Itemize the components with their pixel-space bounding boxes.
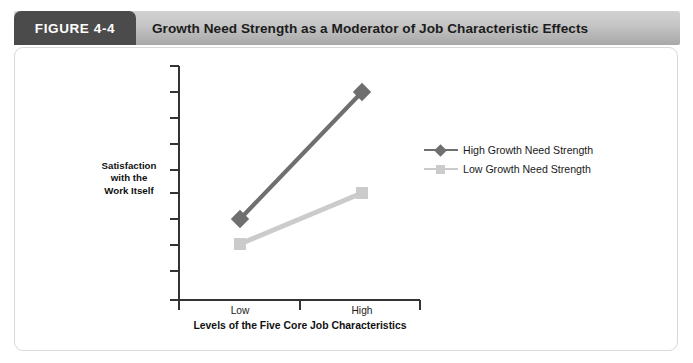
figure-number-label: FIGURE 4-4 — [35, 21, 115, 36]
figure-container: FIGURE 4-4 Growth Need Strength as a Mod… — [0, 0, 693, 363]
figure-title: Growth Need Strength as a Moderator of J… — [152, 11, 588, 45]
figure-panel — [14, 47, 678, 351]
figure-number-tab: FIGURE 4-4 — [14, 11, 136, 45]
